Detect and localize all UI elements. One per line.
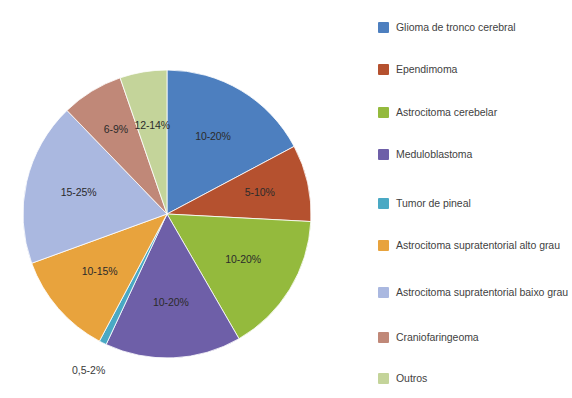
pie-plot-area: 10-20%5-10%10-20%10-20%0,5-2%10-15%15-25… <box>0 0 340 398</box>
legend-item-label: Astrocitoma supratentorial baixo grau <box>396 286 568 298</box>
legend-item-label: Tumor de pineal <box>396 197 471 209</box>
legend-item-label: Astrocitoma cerebelar <box>396 106 497 118</box>
legend-swatch-icon <box>378 332 389 343</box>
legend-item-astrocitoma-supratentorial-alto-grau[interactable]: Astrocitoma supratentorial alto grau <box>378 238 560 252</box>
legend-item-tumor-de-pineal[interactable]: Tumor de pineal <box>378 196 471 210</box>
legend-swatch-icon <box>378 149 389 160</box>
pie-slice-label-astrocitoma-supratentorial-alto-grau: 10-15% <box>82 265 118 277</box>
legend-item-craniofaringeoma[interactable]: Craniofaringeoma <box>378 330 479 344</box>
legend-item-outros[interactable]: Outros <box>378 371 427 385</box>
legend-item-ependimoma[interactable]: Ependimoma <box>378 62 457 76</box>
legend-item-meduloblastoma[interactable]: Meduloblastoma <box>378 147 472 161</box>
legend-swatch-icon <box>378 22 389 33</box>
legend-swatch-icon <box>378 198 389 209</box>
legend-item-label: Outros <box>396 372 427 384</box>
legend-swatch-icon <box>378 107 389 118</box>
legend-item-glioma-de-tronco-cerebral[interactable]: Glioma de tronco cerebral <box>378 20 516 34</box>
legend-swatch-icon <box>378 64 389 75</box>
pie-slice-group <box>23 70 311 358</box>
legend-item-label: Glioma de tronco cerebral <box>396 21 516 33</box>
legend-item-label: Craniofaringeoma <box>396 331 479 343</box>
pie-slice-label-astrocitoma-supratentorial-baixo-grau: 15-25% <box>61 186 97 198</box>
pie-slice-label-outros: 12-14% <box>134 119 170 131</box>
pie-slice-label-tumor-de-pineal: 0,5-2% <box>72 364 105 376</box>
pie-slice-label-ependimoma: 5-10% <box>245 186 275 198</box>
pie-slice-label-meduloblastoma: 10-20% <box>153 296 189 308</box>
pie-chart-figure: 10-20%5-10%10-20%10-20%0,5-2%10-15%15-25… <box>0 0 572 398</box>
pie-slice-label-astrocitoma-cerebelar: 10-20% <box>225 253 261 265</box>
legend-swatch-icon <box>378 373 389 384</box>
legend-swatch-icon <box>378 240 389 251</box>
pie-slice-label-craniofaringeoma: 6-9% <box>104 123 128 135</box>
legend-item-label: Meduloblastoma <box>396 148 472 160</box>
legend-swatch-icon <box>378 287 389 298</box>
pie-svg: 10-20%5-10%10-20%10-20%0,5-2%10-15%15-25… <box>0 0 340 398</box>
legend-item-label: Ependimoma <box>396 63 457 75</box>
legend-item-label: Astrocitoma supratentorial alto grau <box>396 239 560 251</box>
legend-item-astrocitoma-cerebelar[interactable]: Astrocitoma cerebelar <box>378 105 497 119</box>
pie-slice-label-glioma-de-tronco-cerebral: 10-20% <box>195 130 231 142</box>
chart-legend: Glioma de tronco cerebralEpendimomaAstro… <box>378 0 572 398</box>
legend-item-astrocitoma-supratentorial-baixo-grau[interactable]: Astrocitoma supratentorial baixo grau <box>378 285 568 299</box>
